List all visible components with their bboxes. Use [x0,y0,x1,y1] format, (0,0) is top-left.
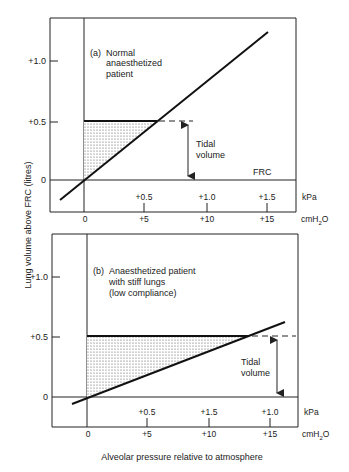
panel-a-ylabel-05: +0.5 [28,117,46,127]
panel-b-title-line-3: (low compliance) [109,288,177,298]
panel-b-cm-0: 0 [86,429,91,439]
panel-a-cm-0: 0 [83,214,88,224]
panel-b-cmh2o-unit: cmH2O [302,429,330,441]
panel-b-kpa-15: +1.5 [201,407,218,417]
panel-a-title-line-2: anaesthetized [106,58,162,68]
panel-b-tidal-label-1: Tidal [241,357,260,367]
panel-a-ylabel-1: +1.0 [28,56,46,66]
panel-a-cmh2o-unit: cmH2O [301,214,329,226]
panel-b: (b) Anaesthetized patient with stiff lun… [30,234,330,441]
panel-b-kpa-unit: kPa [304,407,319,417]
panel-a-kpa-10: +1.0 [199,192,216,202]
panel-a-tidal-label-2: volume [196,150,225,160]
panel-a-tidal-label-1: Tidal [196,139,215,149]
panel-b-cm-15: +15 [263,429,278,439]
panel-a-title-line-3: patient [106,69,134,79]
panel-b-kpa-05: +0.5 [139,407,156,417]
panel-b-kpa-10: +1.0 [262,407,279,417]
panel-b-tidal-label-2: volume [241,368,270,378]
panel-b-cm-5: +5 [142,429,152,439]
panel-a: (a) Normal anaesthetized patient Tidal v… [28,18,329,226]
panel-a-kpa-05: +0.5 [136,192,153,202]
panel-a-cm-15: +15 [260,214,275,224]
y-axis-label: Lung volume above FRC (litres) [23,161,33,288]
panel-a-cm-10: +10 [200,214,215,224]
panel-b-ylabel-05: +0.5 [30,332,48,342]
panel-b-tag: (b) [93,266,104,276]
panel-a-frame [50,18,296,212]
panel-a-ylabel-0: 0 [41,175,46,185]
panel-a-title-line-1: Normal [106,48,135,58]
figure-canvas: (a) Normal anaesthetized patient Tidal v… [0,0,349,472]
panel-b-title-line-1: Anaesthetized patient [109,266,196,276]
panel-b-title-line-2: with stiff lungs [108,277,166,287]
panel-b-ylabel-0: 0 [43,392,48,402]
panel-a-cm-5: +5 [139,214,149,224]
panel-a-frc-label: FRC [253,167,272,177]
panel-a-kpa-unit: kPa [302,192,317,202]
panel-b-cm-10: +10 [202,429,217,439]
panel-a-kpa-15: +1.5 [259,192,276,202]
x-axis-label: Alveolar pressure relative to atmosphere [101,452,263,462]
panel-a-tag: (a) [90,48,101,58]
